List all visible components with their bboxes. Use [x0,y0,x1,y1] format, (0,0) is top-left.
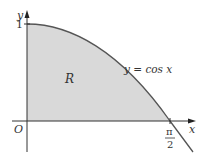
curve-label: y = cos x [123,63,172,75]
x-axis-label: x [189,123,196,136]
y-axis-arrow-icon [25,10,30,18]
x-tick-denominator: 2 [167,139,173,150]
x-tick-numerator: π [166,126,173,137]
cosine-region-diagram: y 1 O x R y = cos x π 2 [0,0,209,163]
region-label: R [64,72,74,86]
origin-label: O [14,123,23,136]
y-tick-label: 1 [16,18,23,31]
